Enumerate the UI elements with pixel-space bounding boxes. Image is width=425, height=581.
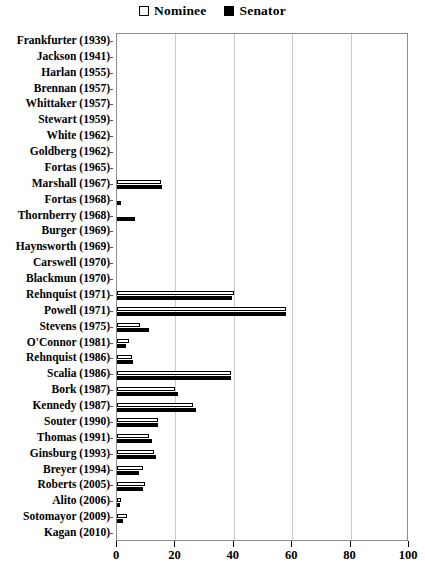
bar-row <box>117 66 407 82</box>
bar-row <box>117 288 407 304</box>
bar-senator <box>117 503 120 507</box>
legend-swatch-senator-icon <box>224 6 234 16</box>
bar-row <box>117 82 407 98</box>
y-axis-label: Stewart (1959) <box>38 115 110 127</box>
y-axis-tick <box>108 501 113 502</box>
x-axis-tick-0 <box>116 541 117 547</box>
y-axis-label: Breyer (1994) <box>43 464 110 476</box>
bar-senator <box>117 376 231 380</box>
plot-area <box>116 33 408 541</box>
bar-row <box>117 161 407 177</box>
bar-senator <box>117 344 126 348</box>
bar-row <box>117 447 407 463</box>
y-axis-labels: Frankfurter (1939)Jackson (1941)Harlan (… <box>0 33 113 541</box>
bar-row <box>117 320 407 336</box>
y-axis-label: White (1962) <box>46 130 110 142</box>
y-axis-label: Marshall (1967) <box>32 178 110 190</box>
bar-row <box>117 50 407 66</box>
y-axis-label: Souter (1990) <box>44 416 110 428</box>
bar-senator <box>117 296 232 300</box>
bar-row <box>117 383 407 399</box>
y-axis-tick <box>108 517 113 518</box>
x-axis-ticks <box>116 541 408 548</box>
y-axis-tick <box>108 438 113 439</box>
bar-row <box>117 225 407 241</box>
y-axis-label: Rehnquist (1971) <box>26 289 110 301</box>
y-axis-tick <box>108 57 113 58</box>
y-axis-tick <box>108 73 113 74</box>
bar-row <box>117 510 407 526</box>
y-axis-label: Bork (1987) <box>52 384 110 396</box>
y-axis-tick <box>108 216 113 217</box>
legend-item-senator: Senator <box>224 4 285 18</box>
bar-nominee <box>117 371 231 375</box>
x-axis-labels: 020406080100 <box>0 549 425 569</box>
bar-nominee <box>117 450 154 454</box>
bar-row <box>117 479 407 495</box>
y-axis-label: Rehnquist (1986) <box>26 353 110 365</box>
y-axis-tick <box>108 422 113 423</box>
y-axis-label: Roberts (2005) <box>38 480 111 492</box>
y-axis-label: Goldberg (1962) <box>30 146 110 158</box>
bar-rows <box>117 34 407 540</box>
y-axis-label: Brennan (1957) <box>34 83 110 95</box>
y-axis-tick <box>108 374 113 375</box>
y-axis-label: Kennedy (1987) <box>32 400 110 412</box>
bar-nominee <box>117 466 143 470</box>
y-axis-tick <box>108 184 113 185</box>
bar-nominee <box>117 323 140 327</box>
bar-senator <box>117 201 121 205</box>
x-axis-tick-20 <box>174 541 175 547</box>
y-axis-tick <box>108 152 113 153</box>
y-axis-label: Fortas (1965) <box>45 162 110 174</box>
y-axis-label: Thornberry (1968) <box>18 210 110 222</box>
y-axis-tick <box>108 295 113 296</box>
y-axis-tick <box>108 327 113 328</box>
bar-nominee <box>117 307 286 311</box>
bar-nominee <box>117 434 149 438</box>
bar-row <box>117 240 407 256</box>
legend-item-nominee: Nominee <box>139 4 206 18</box>
y-axis-tick <box>108 406 113 407</box>
bar-senator <box>117 519 123 523</box>
bar-senator <box>117 185 162 189</box>
y-axis-tick <box>108 231 113 232</box>
bar-row <box>117 256 407 272</box>
bar-senator <box>117 423 158 427</box>
y-axis-label: Carswell (1970) <box>33 257 110 269</box>
x-axis-label-60: 60 <box>285 549 298 562</box>
x-axis-label-40: 40 <box>227 549 240 562</box>
y-axis-tick <box>108 120 113 121</box>
legend-label-nominee: Nominee <box>154 4 206 18</box>
y-axis-label: O'Connor (1981) <box>27 337 110 349</box>
bar-row <box>117 145 407 161</box>
bar-row <box>117 336 407 352</box>
y-axis-label: Whittaker (1957) <box>26 99 110 111</box>
bar-row <box>117 352 407 368</box>
y-axis-tick <box>108 263 113 264</box>
bar-nominee <box>117 291 234 295</box>
bar-nominee <box>117 387 175 391</box>
y-axis-tick <box>108 485 113 486</box>
bar-nominee <box>117 403 193 407</box>
y-axis-label: Harlan (1955) <box>41 67 110 79</box>
legend-swatch-nominee-icon <box>139 6 149 16</box>
y-axis-tick <box>108 200 113 201</box>
y-axis-label: Stevens (1975) <box>39 321 110 333</box>
y-axis-label: Sotomayor (2009) <box>23 511 110 523</box>
y-axis-label: Jackson (1941) <box>37 51 110 63</box>
bar-row <box>117 415 407 431</box>
y-axis-tick <box>108 41 113 42</box>
x-axis-tick-40 <box>233 541 234 547</box>
bar-nominee <box>117 339 129 343</box>
bar-row <box>117 526 407 542</box>
bar-nominee <box>117 498 121 502</box>
x-axis-tick-80 <box>350 541 351 547</box>
y-axis-tick <box>108 533 113 534</box>
y-axis-label: Burger (1969) <box>42 226 110 238</box>
bar-row <box>117 367 407 383</box>
x-axis-label-0: 0 <box>113 549 119 562</box>
y-axis-tick <box>108 470 113 471</box>
bar-nominee <box>117 355 132 359</box>
y-axis-label: Kagan (2010) <box>44 527 110 539</box>
